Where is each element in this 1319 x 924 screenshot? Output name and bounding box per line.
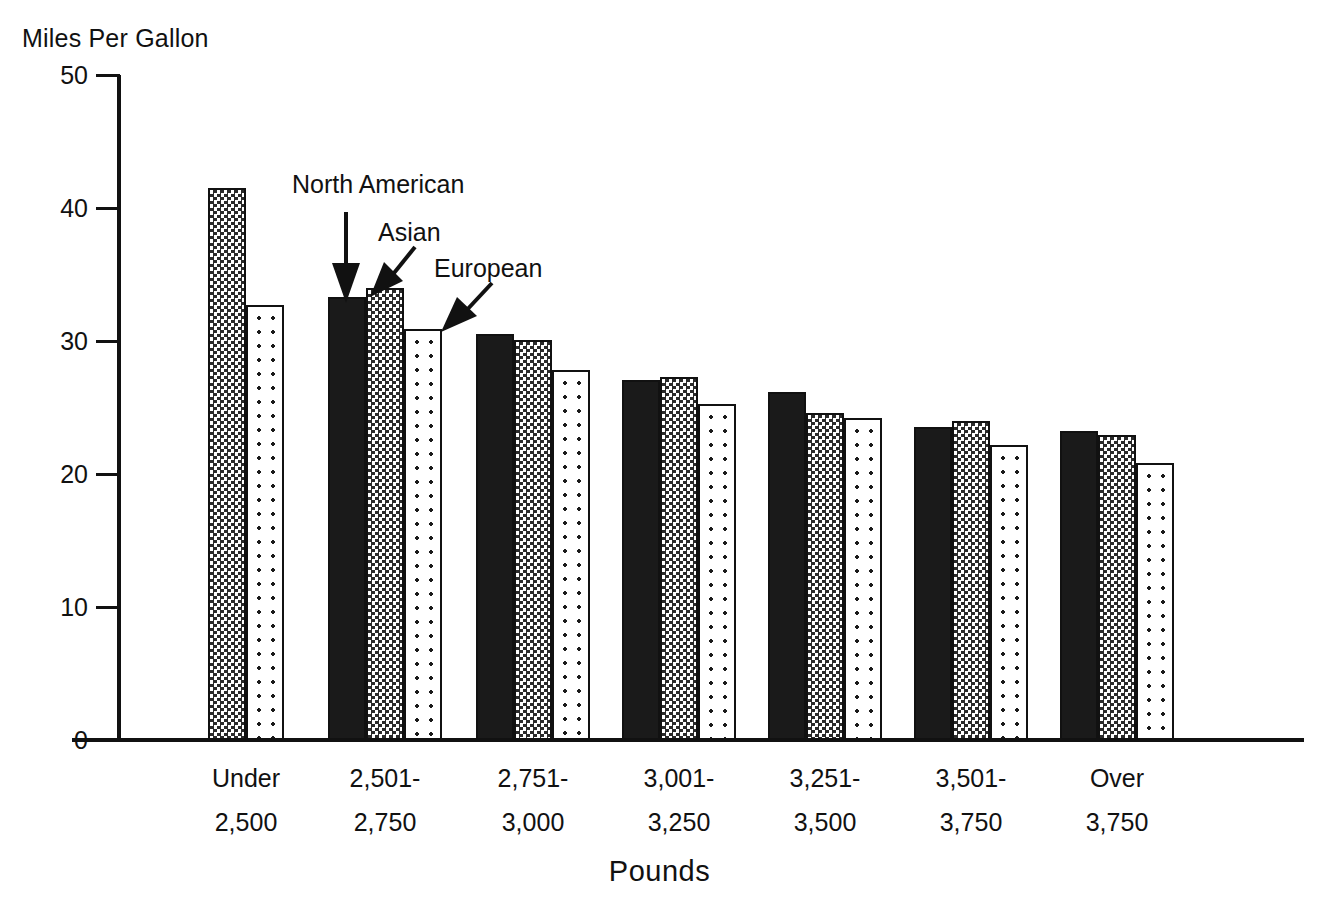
annotation-label-north-american: North American — [292, 170, 464, 199]
bar-north-american-group-4 — [622, 380, 660, 740]
bar-asian-group-3 — [514, 340, 552, 740]
bar-north-american-group-2 — [328, 297, 366, 740]
bar-asian-group-7 — [1098, 435, 1136, 740]
bar-european-group-2 — [404, 329, 442, 740]
bar-european-group-7 — [1136, 463, 1174, 740]
bar-asian-group-1 — [208, 188, 246, 740]
x-category-label-line1: Over — [1022, 756, 1212, 800]
bar-asian-group-5 — [806, 413, 844, 740]
bar-north-american-group-6 — [914, 427, 952, 740]
x-axis-title: Pounds — [0, 855, 1319, 888]
bar-north-american-group-5 — [768, 392, 806, 740]
bar-asian-group-2 — [366, 288, 404, 740]
x-category-label-7: Over3,750 — [1022, 756, 1212, 844]
bar-north-american-group-7 — [1060, 431, 1098, 740]
bar-european-group-4 — [698, 404, 736, 740]
bar-european-group-3 — [552, 370, 590, 740]
bar-asian-group-6 — [952, 421, 990, 740]
bar-asian-group-4 — [660, 377, 698, 740]
bar-european-group-1 — [246, 305, 284, 740]
mpg-by-weight-bar-chart: Miles Per Gallon 01020304050 Under2,5002… — [0, 0, 1319, 924]
x-category-label-line2: 3,750 — [1022, 800, 1212, 844]
annotation-label-european: European — [434, 254, 542, 283]
bar-european-group-5 — [844, 418, 882, 740]
bar-european-group-6 — [990, 445, 1028, 740]
bar-north-american-group-3 — [476, 334, 514, 740]
annotation-label-asian: Asian — [378, 218, 441, 247]
